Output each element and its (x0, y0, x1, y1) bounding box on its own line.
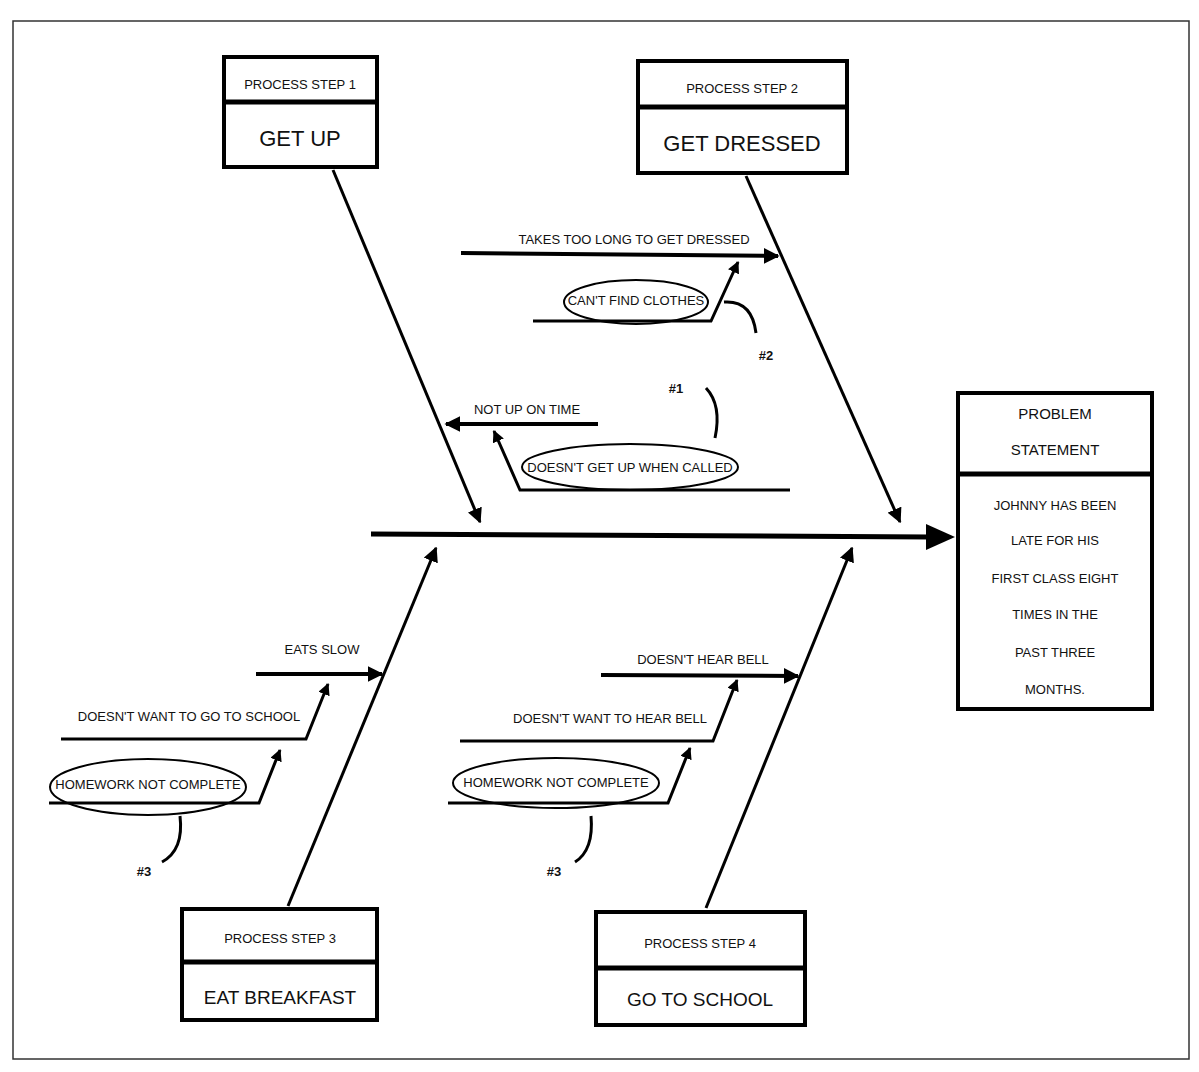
bone-step-1 (333, 170, 480, 522)
cause-label: HOMEWORK NOT COMPLETE (463, 775, 649, 790)
step-title: EAT BREAKFAST (204, 987, 357, 1008)
note-label: #1 (669, 381, 683, 396)
problem-statement-box: PROBLEM STATEMENT JOHNNY HAS BEEN LATE F… (958, 393, 1152, 709)
sub-cause-line (533, 262, 738, 321)
bone-step-4 (706, 548, 852, 908)
note-pointer (575, 816, 591, 862)
process-step-4: PROCESS STEP 4 GO TO SCHOOL DOESN'T HEAR… (448, 548, 852, 1025)
cause-label: NOT UP ON TIME (474, 402, 581, 417)
cause-label: DOESN'T HEAR BELL (637, 652, 769, 667)
problem-body-line: FIRST CLASS EIGHT (992, 571, 1119, 586)
problem-body-line: LATE FOR HIS (1011, 533, 1099, 548)
process-step-2: PROCESS STEP 2 GET DRESSED TAKES TOO LON… (461, 61, 900, 522)
note-pointer (706, 388, 717, 438)
problem-body-line: MONTHS. (1025, 682, 1085, 697)
step-header: PROCESS STEP 2 (686, 81, 798, 96)
spine-arrowhead-icon (926, 524, 955, 550)
cause-label: DOESN'T GET UP WHEN CALLED (527, 460, 732, 475)
note-label: #2 (759, 348, 773, 363)
note-label: #3 (137, 864, 151, 879)
spine (371, 524, 955, 550)
step-title: GET UP (259, 126, 341, 151)
note-label: #3 (547, 864, 561, 879)
fishbone-diagram: PROBLEM STATEMENT JOHNNY HAS BEEN LATE F… (0, 0, 1199, 1072)
step-title: GO TO SCHOOL (627, 989, 773, 1010)
cause-label: TAKES TOO LONG TO GET DRESSED (518, 232, 749, 247)
problem-header-line: PROBLEM (1018, 405, 1091, 422)
note-pointer (162, 816, 181, 862)
cause-label: CAN'T FIND CLOTHES (568, 293, 705, 308)
cause-label: HOMEWORK NOT COMPLETE (55, 777, 241, 792)
problem-body-line: JOHNNY HAS BEEN (994, 498, 1117, 513)
problem-body-line: PAST THREE (1015, 645, 1096, 660)
cause-label: DOESN'T WANT TO GO TO SCHOOL (78, 709, 300, 724)
process-step-3: PROCESS STEP 3 EAT BREAKFAST EATS SLOW D… (49, 548, 436, 1020)
cause-label: DOESN'T WANT TO HEAR BELL (513, 711, 707, 726)
note-pointer (724, 302, 756, 333)
cause-line (461, 253, 778, 256)
step-header: PROCESS STEP 3 (224, 931, 336, 946)
step-header: PROCESS STEP 1 (244, 77, 356, 92)
step-header: PROCESS STEP 4 (644, 936, 756, 951)
cause-label: EATS SLOW (285, 642, 361, 657)
problem-header-line: STATEMENT (1011, 441, 1100, 458)
problem-body-line: TIMES IN THE (1012, 607, 1098, 622)
cause-line (601, 675, 798, 676)
step-title: GET DRESSED (663, 131, 820, 156)
